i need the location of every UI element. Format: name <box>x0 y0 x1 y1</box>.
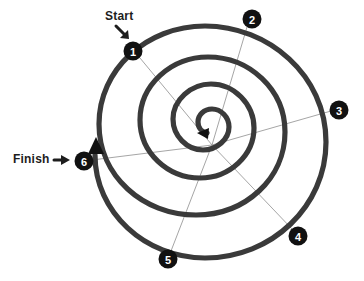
waypoint-marker-4[interactable]: 4 <box>289 227 308 246</box>
waypoint-marker-3-label: 3 <box>336 105 342 117</box>
waypoint-marker-5[interactable]: 5 <box>159 250 178 269</box>
finish-label: Finish <box>13 152 50 166</box>
spiral-diagram-svg: 1 2 3 4 5 6 <box>0 0 364 281</box>
spoke-to-marker-5 <box>171 145 212 251</box>
spiral-path-group <box>95 26 326 258</box>
waypoint-marker-3[interactable]: 3 <box>330 101 349 120</box>
waypoint-marker-2[interactable]: 2 <box>243 10 262 29</box>
finish-arrow-icon <box>54 155 70 165</box>
waypoint-marker-2-label: 2 <box>249 14 255 26</box>
waypoint-marker-6[interactable]: 6 <box>75 152 94 171</box>
waypoint-marker-4-label: 4 <box>295 231 302 243</box>
start-arrow-icon <box>116 26 129 39</box>
spiral-path <box>95 26 326 258</box>
diagram-canvas: 1 2 3 4 5 6 Start <box>0 0 364 281</box>
waypoint-marker-5-label: 5 <box>165 254 171 266</box>
waypoint-marker-6-label: 6 <box>81 156 87 168</box>
waypoint-marker-1-label: 1 <box>130 46 136 58</box>
waypoint-marker-1[interactable]: 1 <box>124 42 143 61</box>
start-label: Start <box>105 9 133 23</box>
waypoint-markers: 1 2 3 4 5 6 <box>75 10 349 269</box>
